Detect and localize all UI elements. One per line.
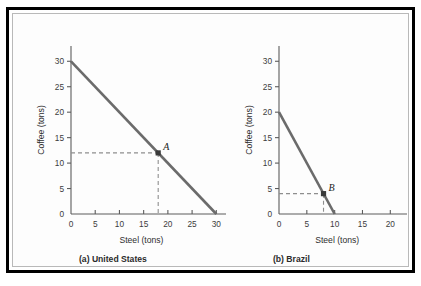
annotation-point-label: A [162,141,170,152]
y-tick-label: 30 [263,56,273,66]
x-tick-label: 20 [386,219,396,229]
y-tick-label: 30 [55,56,65,66]
annotation-point-label: B [329,182,335,193]
chart-united-states: 051015202530051015202530ASteel (tons)Cof… [23,14,233,254]
y-tick-label: 20 [55,107,65,117]
y-tick-label: 25 [263,82,273,92]
y-tick-label: 5 [59,184,64,194]
x-tick-label: 0 [277,219,282,229]
x-tick-label: 15 [358,219,368,229]
chart-panel-brazil: 05101520253005101520BSteel (tons)Coffee … [231,14,416,266]
x-axis-title: Steel (tons) [119,235,163,245]
x-tick-label: 20 [163,219,173,229]
y-tick-label: 5 [267,184,272,194]
x-tick-label: 30 [212,219,222,229]
ppf-line [71,61,216,214]
y-tick-label: 0 [59,209,64,219]
x-tick-label: 15 [139,219,149,229]
x-tick-label: 10 [115,219,125,229]
ppf-line [279,112,335,214]
y-tick-label: 0 [267,209,272,219]
y-tick-label: 20 [263,107,273,117]
x-tick-label: 25 [187,219,197,229]
figure-frame: 051015202530051015202530ASteel (tons)Cof… [6,7,415,273]
y-tick-label: 15 [55,133,65,143]
y-tick-label: 15 [263,133,273,143]
annotation-point-marker [156,150,161,155]
chart-panel-united-states: 051015202530051015202530ASteel (tons)Cof… [23,14,233,266]
x-tick-label: 5 [93,219,98,229]
figure-inner-frame: 051015202530051015202530ASteel (tons)Cof… [12,13,409,267]
y-tick-label: 10 [263,158,273,168]
y-tick-label: 10 [55,158,65,168]
x-tick-label: 0 [69,219,74,229]
y-tick-label: 25 [55,82,65,92]
y-axis-title: Coffee (tons) [244,105,254,155]
chart-caption-brazil: (b) Brazil [273,254,310,264]
x-tick-label: 5 [305,219,310,229]
chart-brazil: 05101520253005101520BSteel (tons)Coffee … [231,14,416,254]
chart-caption-united-states: (a) United States [79,254,147,264]
x-axis-title: Steel (tons) [315,235,359,245]
annotation-point-marker [321,191,326,196]
x-tick-label: 10 [330,219,340,229]
y-axis-title: Coffee (tons) [36,105,46,155]
